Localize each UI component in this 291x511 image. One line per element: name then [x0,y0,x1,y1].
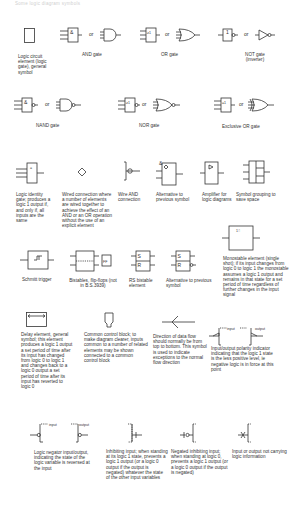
polarity-indicator-icon: input output [207,326,291,348]
wire-and-alt-icon: & [156,160,190,188]
symbol-grouping-icon [236,160,280,188]
symbol-delay-element: Delay element, general symbol; this elem… [18,312,74,422]
symbol-and-gate: & or AND gate [60,26,130,66]
svg-text:or: or [239,101,244,107]
caption: OR gate [161,52,201,57]
symbol-identity-gate: = Logic identity gate; produces a logic … [16,162,56,242]
symbol-no-logic-io: Input or output not carrying logic infor… [232,420,290,480]
svg-text:1⎍: 1⎍ [236,229,241,233]
caption: Inhibiting input; when standing at its l… [106,449,168,480]
svg-text:or: or [142,101,147,107]
svg-text:or: or [165,31,170,37]
caption: Delay element, general symbol; this elem… [21,332,73,389]
symbol-amplifier: Amplifier for logic diagrams [200,160,230,210]
caption: RS bistable element [129,278,163,288]
symbol-negated-inhibiting-input: Negated inhibiting input; when standing … [170,420,232,500]
caption: Negated inhibiting input; when standing … [171,449,231,475]
caption: Wire AND connection [118,192,150,202]
symbol-inhibiting-input: Inhibiting input; when standing at its l… [106,420,170,500]
svg-text:input: input [227,327,235,331]
caption: Monostable element (single shot); if its… [223,256,289,298]
wire-and-icon [118,160,150,184]
svg-text:or: or [45,101,50,107]
caption: Exclusive OR gate [222,124,272,129]
rs-bistable-icon: SR [126,250,162,274]
svg-text:or: or [89,31,94,37]
caption: Logic negator input/output, indicating t… [34,450,92,471]
svg-text:S: S [178,253,182,259]
svg-text:input: input [49,423,57,427]
caption: Symbol grouping to save space [236,192,284,202]
caption: Logic identity gate; produces a logic 1 … [16,192,54,223]
svg-text:R: R [178,262,182,268]
symbol-schmitt-trigger: Schmitt trigger [12,250,62,290]
caption: Alternative to previous symbol [156,192,190,202]
caption: Common control block; to make diagram cl… [84,332,148,363]
caption: NOT gate (inverter) [237,52,273,62]
symbol-rs-bistable-alt: SR Alternative to previous symbol [166,250,212,300]
caption: NAND gate [36,123,76,128]
svg-text:output: output [79,423,89,427]
caption: Input/output polarity indicator indicati… [211,346,277,372]
svg-text:&: & [24,99,28,105]
bistable-icon: FF [68,250,118,274]
nor-gate-icon: ≥1 [118,96,198,116]
svg-text:1: 1 [226,29,229,35]
xor-gate-icon: =1 [214,96,291,116]
symbol-polarity-indicator: input output Input/output polarity indic… [207,326,291,416]
symbol-rs-bistable: SR RS bistable element [126,250,162,300]
caption: Bistables, flip-flops (not in B.S.3939) [68,278,118,288]
symbol-wire-and: Wire AND connection [118,160,150,200]
schmitt-trigger-icon [12,250,62,272]
common-control-icon [104,312,124,332]
svg-text:S: S [138,253,142,259]
symbol-wired-connection: Wired connection where a number of eleme… [62,162,114,252]
symbol-monostable: 1⎍ Monostable element (single shot); if … [222,225,290,325]
caption: AND gate [82,52,122,57]
symbol-bistable: FF Bistables, flip-flops (not in B.S.393… [68,250,118,300]
svg-text:output: output [255,327,265,331]
caption: NOR gate [139,123,179,128]
nand-gate-icon: & [14,96,104,116]
svg-text:=1: =1 [222,101,226,105]
data-flow-arrow-icon [160,316,200,330]
svg-text:FF: FF [103,260,108,264]
symbol-xor-gate: =1 or Exclusive OR gate [214,96,291,136]
delay-element-icon [26,312,56,332]
wired-connection-icon [78,168,98,188]
caption: Logic circuit element (logic gate), gene… [18,54,58,75]
svg-text:R: R [138,262,142,268]
symbol-or-gate: ≥1 or OR gate [140,26,210,66]
page-title: Some logic diagram symbols [15,1,80,6]
monostable-icon: 1⎍ [222,225,290,253]
negated-inhibiting-input-icon [170,420,232,446]
svg-text:=: = [30,166,32,170]
no-logic-io-icon [232,420,290,446]
symbol-common-control: Common control block; to make diagram cl… [84,312,148,392]
svg-text:≥1: ≥1 [147,31,151,35]
symbol-data-flow: Direction of data flow should normally b… [150,316,212,396]
caption: Schmitt trigger [22,277,64,282]
or-gate-icon: ≥1 [140,26,210,46]
logic-element-icon [24,28,38,46]
inhibiting-input-icon [106,420,170,446]
identity-gate-icon: = [16,162,56,186]
svg-text:&: & [70,29,74,35]
caption: Input or output not carrying logic infor… [232,449,288,459]
symbol-logic-element: Logic circuit element (logic gate), gene… [18,28,58,78]
caption: Direction of data flow should normally b… [153,334,209,365]
symbol-wire-and-alt: & Alternative to previous symbol [156,160,190,210]
svg-text:≥1: ≥1 [126,101,130,105]
symbol-grouping: Symbol grouping to save space [236,160,286,210]
symbol-nand-gate: & or NAND gate [14,96,104,136]
rs-bistable-alt-icon: SR [166,250,212,274]
caption: Wired connection where a number of eleme… [62,192,114,228]
svg-text:or: or [244,31,249,37]
caption: Amplifier for logic diagrams [202,192,232,202]
symbol-not-gate: 1 or NOT gate (inverter) [215,26,285,76]
amplifier-icon [200,160,230,188]
symbol-logic-negator: input output Logic negator input/output,… [28,420,108,480]
caption: Alternative to previous symbol [166,278,212,288]
symbol-nor-gate: ≥1 or NOR gate [118,96,198,136]
logic-negator-icon: input output [28,420,108,446]
